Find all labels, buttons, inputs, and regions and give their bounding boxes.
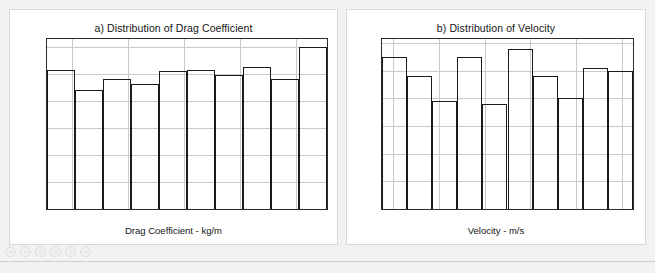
histogram-bar [533,76,558,210]
x-axis-tick-mark [393,209,394,210]
histogram-bar [103,79,131,210]
histogram-bar [299,47,327,210]
screenshot-viewport: a) Distribution of Drag Coefficient 0204… [0,0,655,273]
x-axis-tick-mark [296,209,297,210]
x-axis-tick-mark [439,209,440,210]
x-axis-tick-label: 33.2 [431,209,448,210]
histogram-bar [215,75,243,210]
x-axis-tick-mark [240,209,241,210]
zoom-icon[interactable] [50,246,61,257]
x-axis-tick-label: 0.27 [288,209,305,210]
minus-icon[interactable] [80,246,91,257]
home-icon[interactable] [5,246,16,257]
x-axis-tick-label: 33.4 [522,209,539,210]
histogram-bar [187,70,215,210]
histogram-bar [271,79,299,210]
histogram-bar [159,71,187,210]
figure-b: b) Distribution of Velocity 010203040506… [347,10,645,244]
settings-icon[interactable] [65,246,76,257]
x-axis-tick-mark [621,209,622,210]
plot-area-b: 010203040506033.133.233.333.433.533.6 [381,38,634,210]
x-axis-tick-mark [72,209,73,210]
chart-title-b: b) Distribution of Velocity [347,22,645,34]
histogram-bars [382,39,633,209]
chart-title-a: a) Distribution of Drag Coefficient [10,22,337,34]
footer-band [0,262,655,273]
histogram-bar [243,67,271,210]
histogram-bar [407,76,432,210]
x-axis-tick-label: 33.1 [385,209,402,210]
x-axis-tick-label: 33.6 [613,209,630,210]
x-axis-tick-mark [575,209,576,210]
histogram-bar [432,101,457,210]
plot-area-a: 0204060801001200.230.240.250.260.27 [46,38,328,210]
chart-panel-drag-coefficient: a) Distribution of Drag Coefficient 0204… [9,9,338,245]
x-axis-tick-label: 33.3 [476,209,493,210]
figure-a: a) Distribution of Drag Coefficient 0204… [10,10,337,244]
x-axis-tick-mark [184,209,185,210]
histogram-bar [75,90,103,210]
histogram-bar [382,57,407,210]
viewer-toolbar[interactable] [5,246,91,257]
x-axis-tick-label: 33.5 [568,209,585,210]
histogram-bar [583,68,608,210]
x-axis-tick-mark [484,209,485,210]
x-axis-tick-label: 0.26 [232,209,249,210]
histogram-bar [131,84,159,210]
figure-panels: a) Distribution of Drag Coefficient 0204… [9,9,646,245]
histogram-bar [608,71,633,210]
x-axis-tick-mark [128,209,129,210]
x-axis-tick-label: 0.25 [176,209,193,210]
x-axis-label-a: Drag Coefficient - kg/m [10,225,337,236]
pan-icon[interactable] [35,246,46,257]
x-axis-tick-label: 0.24 [120,209,137,210]
histogram-bar [457,57,482,210]
histogram-bars [47,39,327,209]
histogram-bar [508,49,533,210]
x-axis-tick-mark [530,209,531,210]
forward-icon[interactable] [20,246,31,257]
histogram-bar [558,98,583,210]
x-axis-tick-label: 0.23 [64,209,81,210]
x-axis-label-b: Velocity - m/s [347,225,645,236]
histogram-bar [482,104,507,210]
chart-panel-velocity: b) Distribution of Velocity 010203040506… [346,9,646,245]
histogram-bar [47,70,75,210]
